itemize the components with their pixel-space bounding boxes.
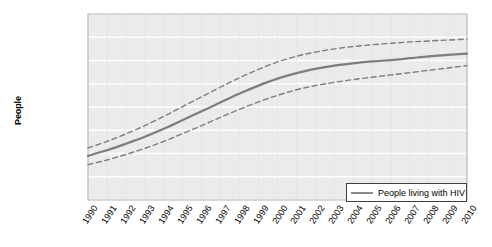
x-axis-tick-labels: 1990199119921993199419951996199719981999… bbox=[0, 0, 492, 247]
hiv-prevalence-line-chart: People 40,000,00035,000,00030,000,00025,… bbox=[0, 0, 492, 247]
legend-label: People living with HIV bbox=[378, 188, 465, 198]
legend-line-swatch bbox=[351, 192, 373, 194]
chart-legend: People living with HIV bbox=[346, 183, 467, 202]
